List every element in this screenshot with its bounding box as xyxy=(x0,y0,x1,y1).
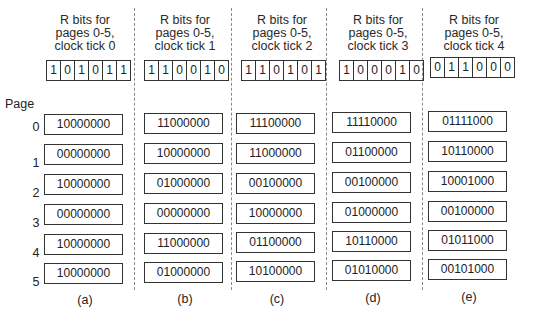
aging-counter: 10000000 xyxy=(44,114,123,135)
column-header: R bits forpages 0-5,clock tick 0 xyxy=(35,14,135,53)
column-c: R bits forpages 0-5,clock tick 2 1 1 0 1… xyxy=(232,0,332,324)
r-bit: 1 xyxy=(47,61,61,80)
r-bit: 1 xyxy=(242,61,256,80)
aging-counter: 00000000 xyxy=(144,203,223,224)
column-header: R bits forpages 0-5,clock tick 3 xyxy=(328,14,428,53)
aging-counter: 01000000 xyxy=(144,262,223,283)
aging-counter: 01100000 xyxy=(332,142,411,163)
r-bits-register: 1 0 1 0 1 1 xyxy=(46,60,131,81)
column-header: R bits forpages 0-5,clock tick 2 xyxy=(232,14,332,53)
r-bit: 0 xyxy=(298,61,312,80)
r-bit: 0 xyxy=(187,61,201,80)
r-bits-register: 0 1 1 0 0 0 xyxy=(430,57,515,78)
r-bit: 1 xyxy=(75,61,89,80)
subfigure-label: (e) xyxy=(449,290,489,304)
aging-counter: 10100000 xyxy=(236,261,315,282)
aging-counter: 11000000 xyxy=(144,113,223,134)
r-bit: 0 xyxy=(431,58,445,77)
aging-counter: 11000000 xyxy=(144,233,223,254)
r-bit: 1 xyxy=(340,61,354,80)
r-bits-register: 1 1 0 0 1 0 xyxy=(144,60,229,81)
r-bit: 0 xyxy=(61,61,75,80)
aging-counter: 01000000 xyxy=(144,173,223,194)
aging-counter: 10110000 xyxy=(332,231,411,252)
aging-counter: 10000000 xyxy=(44,174,123,195)
aging-counter: 00000000 xyxy=(44,144,123,165)
r-bit: 0 xyxy=(354,61,368,80)
r-bit: 1 xyxy=(201,61,215,80)
aging-counter: 11110000 xyxy=(332,112,411,133)
aging-counter: 11100000 xyxy=(236,113,315,134)
column-b: R bits forpages 0-5,clock tick 1 1 1 0 0… xyxy=(135,0,235,324)
r-bit: 1 xyxy=(117,61,130,80)
column-header: R bits forpages 0-5,clock tick 1 xyxy=(135,14,235,53)
subfigure-label: (b) xyxy=(165,292,205,306)
aging-counter: 01100000 xyxy=(236,232,315,253)
aging-counter: 00100000 xyxy=(428,201,507,222)
r-bit: 1 xyxy=(312,61,325,80)
aging-counter: 10000000 xyxy=(44,263,123,284)
aging-counter: 01011000 xyxy=(428,230,507,251)
aging-counter: 10000000 xyxy=(236,203,315,224)
r-bit: 0 xyxy=(215,61,228,80)
r-bit: 1 xyxy=(159,61,173,80)
column-d: R bits forpages 0-5,clock tick 3 1 0 0 0… xyxy=(328,0,428,324)
aging-counter: 01010000 xyxy=(332,260,411,281)
r-bit: 1 xyxy=(256,61,270,80)
r-bit: 1 xyxy=(145,61,159,80)
r-bit: 0 xyxy=(487,58,501,77)
column-header: R bits forpages 0-5,clock tick 4 xyxy=(424,14,524,53)
aging-counter: 10000000 xyxy=(144,143,223,164)
subfigure-label: (c) xyxy=(257,292,297,306)
column-e: R bits forpages 0-5,clock tick 4 0 1 1 0… xyxy=(424,0,524,324)
r-bit: 1 xyxy=(445,58,459,77)
r-bit: 0 xyxy=(270,61,284,80)
r-bit: 1 xyxy=(103,61,117,80)
subfigure-label: (d) xyxy=(353,291,393,305)
r-bit: 0 xyxy=(501,58,514,77)
aging-counter: 10001000 xyxy=(428,171,507,192)
r-bits-register: 1 1 0 1 0 1 xyxy=(241,60,326,81)
page-axis-label: Page xyxy=(5,97,34,111)
r-bit: 1 xyxy=(284,61,298,80)
aging-counter: 01111000 xyxy=(428,111,507,132)
aging-counter: 00100000 xyxy=(332,172,411,193)
aging-counter: 00100000 xyxy=(236,173,315,194)
subfigure-label: (a) xyxy=(65,293,105,307)
aging-counter: 01000000 xyxy=(332,202,411,223)
r-bit: 1 xyxy=(459,58,473,77)
aging-counter: 10000000 xyxy=(44,234,123,255)
r-bit: 1 xyxy=(396,61,410,80)
aging-counter: 11000000 xyxy=(236,143,315,164)
column-a: R bits forpages 0-5,clock tick 0 1 0 1 0… xyxy=(35,0,135,324)
aging-counter: 00000000 xyxy=(44,204,123,225)
r-bit: 0 xyxy=(410,61,423,80)
aging-counter: 00101000 xyxy=(428,259,507,280)
r-bit: 0 xyxy=(89,61,103,80)
r-bit: 0 xyxy=(473,58,487,77)
r-bit: 0 xyxy=(382,61,396,80)
r-bits-register: 1 0 0 0 1 0 xyxy=(339,60,424,81)
r-bit: 0 xyxy=(173,61,187,80)
aging-counter: 10110000 xyxy=(428,141,507,162)
r-bit: 0 xyxy=(368,61,382,80)
